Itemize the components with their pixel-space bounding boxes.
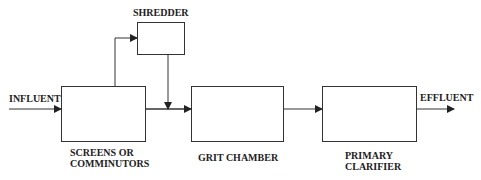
flow-diagram: INFLUENT EFFLUENT SHREDDER SCREENS OR CO… [0,0,481,180]
grit-chamber-label: GRIT CHAMBER [198,152,279,163]
primary-clarifier-label-line1: PRIMARY [345,150,394,161]
primary-clarifier-label-line2: CLARIFIER [345,161,402,172]
grit-chamber-box [192,87,284,142]
screens-to-shredder-arrow [115,38,137,86]
screens-label-line2: COMMINUTORS [70,158,150,169]
effluent-label: EFFLUENT [420,92,474,103]
screens-box [62,87,146,142]
shredder-label: SHREDDER [133,7,189,18]
screens-label-line1: SCREENS OR [70,147,134,158]
influent-label: INFLUENT [9,93,61,104]
primary-clarifier-box [323,87,417,142]
shredder-box [138,23,185,55]
